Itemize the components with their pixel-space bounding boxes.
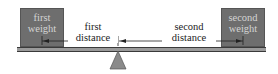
second-distance-label: second distance (162, 21, 216, 43)
first-distance-line1: first (69, 21, 117, 32)
first-weight-label-line1: first (21, 12, 63, 23)
arrow-left-icon (120, 39, 126, 43)
second-weight-label-line2: weight (222, 23, 264, 34)
second-distance-line1: second (163, 21, 215, 32)
first-distance-label: first distance (68, 21, 118, 43)
second-weight-box: second weight (221, 8, 265, 47)
second-weight-label-line1: second (222, 12, 264, 23)
second-distance-line2: distance (163, 32, 215, 43)
first-distance-line2: distance (69, 32, 117, 43)
lever-beam (17, 47, 266, 52)
first-weight-label-line2: weight (21, 23, 63, 34)
first-weight-box: first weight (20, 8, 64, 47)
fulcrum-triangle-icon (110, 51, 126, 69)
